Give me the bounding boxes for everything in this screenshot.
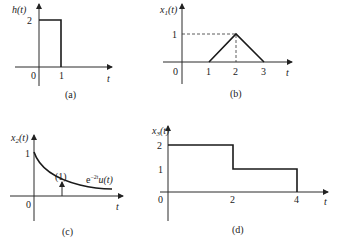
d-staircase — [168, 145, 297, 192]
c-impulse-label: (1) — [55, 171, 67, 183]
a-ylabel: h(t) — [12, 4, 27, 16]
d-xlabel: t — [324, 196, 327, 207]
d-ylabel: x3(t) — [151, 125, 170, 138]
c-caption: (c) — [62, 226, 73, 238]
a-caption: (a) — [65, 89, 76, 101]
signals-figure: h(t) 2 0 1 t (a) x1(t) 1 0 1 2 3 t (b) x… — [0, 0, 345, 244]
panel-b: x1(t) 1 0 1 2 3 t (b) — [159, 4, 292, 100]
panel-a: h(t) 2 0 1 t (a) — [12, 4, 112, 101]
c-curve-label: e−2tu(t) — [86, 174, 114, 186]
a-xtick-0: 0 — [31, 70, 36, 81]
c-xlabel: t — [116, 201, 119, 212]
b-ytick-1: 1 — [172, 29, 177, 40]
b-xtick-0: 0 — [173, 66, 178, 77]
b-xtick-1: 1 — [206, 66, 211, 77]
a-xlabel: t — [107, 73, 110, 84]
d-ytick-2: 2 — [157, 140, 162, 151]
d-xtick-0: 0 — [158, 194, 163, 205]
b-triangle — [209, 34, 264, 62]
panel-d: x3(t) 2 1 0 2 4 t (d) — [151, 125, 328, 236]
c-xtick-0: 0 — [26, 199, 31, 210]
d-caption: (d) — [232, 224, 244, 236]
b-ylabel: x1(t) — [159, 4, 178, 17]
a-ytick-2: 2 — [27, 15, 32, 26]
c-ytick-1: 1 — [25, 148, 30, 159]
panel-c: x2(t) 1 0 (1) e−2tu(t) t (c) — [10, 132, 123, 238]
c-ylabel: x2(t) — [10, 132, 29, 145]
a-xtick-1: 1 — [59, 70, 64, 81]
d-xtick-4: 4 — [294, 194, 299, 205]
d-ytick-1: 1 — [158, 164, 163, 175]
b-xtick-2: 2 — [233, 66, 238, 77]
a-pulse — [39, 20, 61, 67]
b-caption: (b) — [230, 88, 242, 100]
b-guides — [182, 34, 236, 62]
b-xtick-3: 3 — [261, 66, 266, 77]
d-xtick-2: 2 — [230, 194, 235, 205]
b-xlabel: t — [286, 67, 289, 78]
